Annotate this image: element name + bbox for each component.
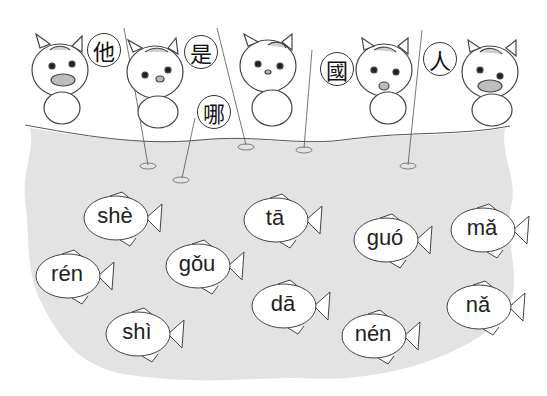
fish-label: nén (344, 320, 402, 348)
sign-guo: 國 (320, 52, 354, 86)
fish-ta[interactable]: tā (240, 190, 330, 250)
cat-1 (32, 34, 88, 124)
fish-label: dā (254, 290, 312, 318)
fish-guo[interactable]: guó (350, 210, 440, 270)
fish-she[interactable]: shè (80, 188, 170, 248)
cat-3 (240, 34, 296, 126)
fish-ren[interactable]: rén (32, 246, 122, 306)
fish-label: guó (356, 224, 414, 252)
fish-label: shè (86, 202, 144, 230)
fish-gou[interactable]: gǒu (162, 236, 252, 296)
sign-na: 哪 (197, 95, 231, 129)
fish-label: rén (38, 260, 96, 288)
fish-ma[interactable]: mǎ (447, 200, 537, 260)
cat-2 (127, 38, 183, 128)
fish-label: mǎ (453, 214, 511, 242)
sign-ta: 他 (87, 33, 121, 67)
cat-4 (356, 38, 412, 124)
fish-label: tā (246, 204, 304, 232)
fish-nen[interactable]: nén (338, 306, 428, 366)
sign-shi: 是 (184, 35, 218, 69)
fishing-scene: 他 是 哪 國 人 shè rén shì gǒu tā dā guó nén … (0, 0, 547, 396)
fish-label: nǎ (449, 291, 507, 319)
fish-da[interactable]: dā (248, 276, 338, 336)
fish-shi[interactable]: shì (102, 304, 192, 364)
fish-label: shì (108, 318, 166, 346)
sign-ren: 人 (423, 42, 457, 76)
fish-na[interactable]: nǎ (443, 277, 533, 337)
cat-5 (462, 40, 518, 126)
fish-label: gǒu (168, 250, 226, 278)
